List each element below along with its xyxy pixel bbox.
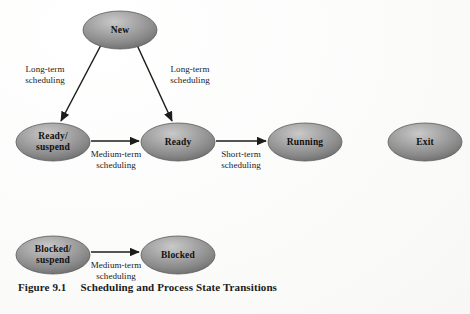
nodes-layer: NewReady/suspendReadyRunningExitBlocked/… [16, 11, 462, 274]
node-new[interactable]: New [83, 11, 157, 49]
figure-caption-title: Scheduling and Process State Transitions [80, 281, 277, 293]
edge-label-ready-suspend-to-ready: Medium-termscheduling [91, 149, 142, 170]
node-ready[interactable]: Ready [141, 123, 215, 161]
node-ready_suspend[interactable]: Ready/suspend [16, 123, 90, 161]
node-label-ready: Ready [165, 137, 192, 147]
figure-page: NewReady/suspendReadyRunningExitBlocked/… [0, 0, 470, 314]
node-label-blocked: Blocked [161, 250, 195, 260]
edge-label-ready-to-running: Short-termscheduling [221, 149, 261, 170]
node-blocked_suspend[interactable]: Blocked/suspend [16, 236, 90, 274]
node-label-new: New [111, 25, 129, 35]
figure-caption: Figure 9.1Scheduling and Process State T… [18, 281, 277, 293]
node-blocked[interactable]: Blocked [141, 236, 215, 274]
edge-new-to-ready [137, 45, 172, 121]
node-running[interactable]: Running [268, 123, 342, 161]
node-label-running: Running [287, 137, 324, 147]
node-label-blocked_suspend: Blocked/suspend [35, 244, 72, 265]
edge-label-new-to-ready: Long-termscheduling [170, 64, 210, 85]
edge-label-new-to-ready-suspend: Long-termscheduling [25, 64, 65, 85]
node-exit[interactable]: Exit [388, 123, 462, 161]
figure-caption-number: Figure 9.1 [18, 281, 66, 293]
state-transition-diagram: NewReady/suspendReadyRunningExitBlocked/… [0, 0, 470, 314]
edge-label-blocked-suspend-to-blocked: Medium-termscheduling [91, 260, 142, 281]
edge-new-to-ready-suspend [61, 45, 101, 121]
node-label-exit: Exit [416, 137, 434, 147]
node-label-ready_suspend: Ready/suspend [36, 131, 70, 152]
